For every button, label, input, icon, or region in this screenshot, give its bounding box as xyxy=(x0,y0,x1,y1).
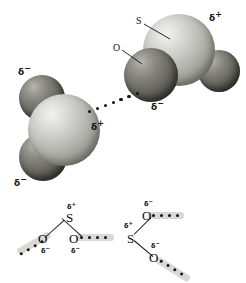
formula-charge-o-center: δ− xyxy=(71,246,80,255)
formula-atom-o-right-lower: O xyxy=(149,251,158,264)
attraction-dot xyxy=(168,214,171,217)
formula-charge-s-right: δ+ xyxy=(124,221,133,230)
attraction-dot xyxy=(119,98,122,101)
attraction-dot xyxy=(112,101,115,104)
bond-o-left-to-s-left xyxy=(45,220,65,238)
formula-charge-s-left: δ+ xyxy=(67,202,76,211)
formula-atom-s-right: S xyxy=(127,232,134,245)
attraction-dot xyxy=(19,252,23,256)
attraction-dot xyxy=(136,92,139,95)
formula-charge-o-right-upper: δ− xyxy=(144,199,153,208)
dipole-dipole-dotted-line xyxy=(0,0,246,140)
charge-sign: + xyxy=(71,201,76,207)
attraction-dot xyxy=(88,236,91,239)
charge-sign: − xyxy=(148,198,153,204)
structural-formula-group: S δ+ O δ− O δ− S δ+ O δ− O δ− xyxy=(0,196,246,279)
formula-atom-s-left: S xyxy=(66,211,73,224)
delta-minus-label-left-oxygen-lower: δ− xyxy=(14,176,27,188)
formula-charge-o-left-lower: δ− xyxy=(41,246,50,255)
charge-sign: − xyxy=(20,175,27,184)
dots-lower-right xyxy=(159,259,189,280)
attraction-dot xyxy=(88,110,91,113)
attraction-dot xyxy=(104,104,107,107)
formula-atom-o-right-upper: O xyxy=(142,209,151,222)
attraction-dot xyxy=(173,268,177,272)
attraction-dot xyxy=(160,214,163,217)
attraction-dot xyxy=(159,259,163,263)
charge-sign: − xyxy=(75,245,80,251)
attraction-dot xyxy=(180,272,184,276)
attraction-dot xyxy=(96,236,99,239)
attraction-dot xyxy=(96,107,99,110)
attraction-dot xyxy=(104,236,107,239)
attraction-dot xyxy=(176,214,179,217)
space-filling-model-group: S O δ+ δ− δ− δ− xyxy=(0,0,246,196)
attraction-dot xyxy=(166,263,170,267)
dots-center xyxy=(80,236,112,239)
formula-atom-o-left-lower: O xyxy=(38,232,47,245)
charge-sign: + xyxy=(128,220,133,226)
attraction-dot xyxy=(33,244,37,248)
attraction-dot xyxy=(127,95,130,98)
formula-atom-o-center: O xyxy=(69,232,78,245)
charge-sign: − xyxy=(45,245,50,251)
attraction-dot xyxy=(26,248,30,252)
dots-upper-right xyxy=(152,214,184,217)
formula-charge-o-right-lower: δ− xyxy=(151,241,160,250)
attraction-dot xyxy=(152,214,155,217)
charge-sign: − xyxy=(155,240,160,246)
attraction-dot xyxy=(80,236,83,239)
